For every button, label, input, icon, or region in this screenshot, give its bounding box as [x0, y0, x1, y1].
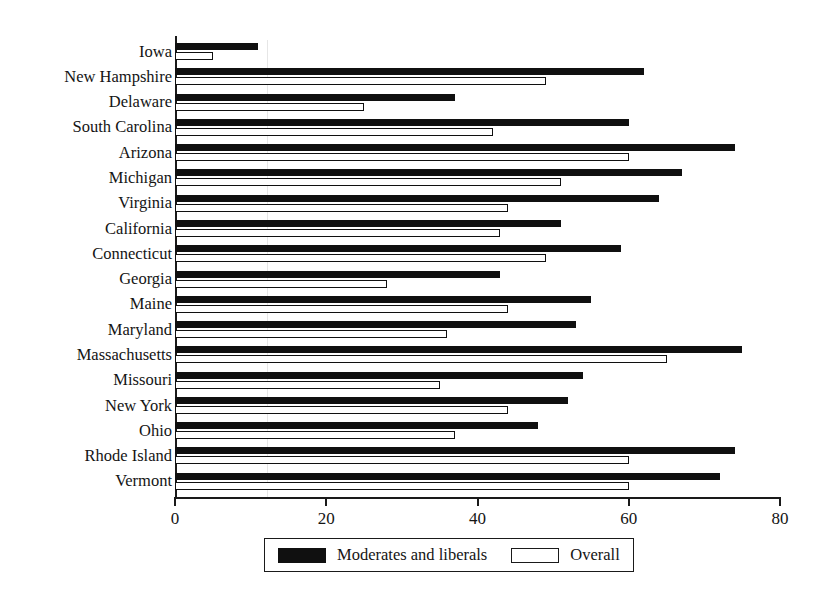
bar-moderates-and-liberals — [175, 473, 720, 480]
bar-moderates-and-liberals — [175, 220, 561, 227]
category-label: Arizona — [4, 144, 172, 162]
bar-moderates-and-liberals — [175, 296, 591, 303]
bar-moderates-and-liberals — [175, 195, 659, 202]
category-label: Delaware — [4, 93, 172, 111]
chart-row — [175, 119, 780, 144]
bar-moderates-and-liberals — [175, 447, 735, 454]
bar-moderates-and-liberals — [175, 346, 742, 353]
chart-row — [175, 245, 780, 270]
bar-overall — [175, 280, 387, 288]
legend-swatch-outlined-icon — [511, 548, 559, 563]
bar-overall — [175, 77, 546, 85]
x-tick-label: 20 — [306, 509, 346, 529]
chart-row — [175, 144, 780, 169]
bar-moderates-and-liberals — [175, 169, 682, 176]
bar-moderates-and-liberals — [175, 321, 576, 328]
bar-moderates-and-liberals — [175, 43, 258, 50]
bar-overall — [175, 330, 447, 338]
category-label: Connecticut — [4, 245, 172, 263]
category-label: Missouri — [4, 371, 172, 389]
chart-row — [175, 422, 780, 447]
plot-area — [175, 40, 780, 495]
x-tick-label: 40 — [458, 509, 498, 529]
bar-overall — [175, 178, 561, 186]
chart-row — [175, 220, 780, 245]
legend-entry-moderates-and-liberals: Moderates and liberals — [278, 546, 487, 564]
category-label: Iowa — [4, 43, 172, 61]
chart-row — [175, 68, 780, 93]
bar-moderates-and-liberals — [175, 144, 735, 151]
chart-figure: IowaNew HampshireDelawareSouth CarolinaA… — [0, 0, 828, 593]
bar-overall — [175, 456, 629, 464]
chart-legend: Moderates and liberals Overall — [264, 538, 634, 572]
category-label: Massachusetts — [4, 346, 172, 364]
bar-overall — [175, 254, 546, 262]
bar-overall — [175, 153, 629, 161]
category-label: South Carolina — [4, 118, 172, 136]
category-label: Virginia — [4, 194, 172, 212]
chart-row — [175, 296, 780, 321]
chart-row — [175, 473, 780, 498]
category-label: Georgia — [4, 270, 172, 288]
legend-label-overall: Overall — [570, 546, 619, 564]
legend-swatch-filled-icon — [278, 548, 326, 563]
chart-row — [175, 271, 780, 296]
y-axis-category-labels: IowaNew HampshireDelawareSouth CarolinaA… — [0, 40, 172, 495]
chart-row — [175, 447, 780, 472]
chart-row — [175, 43, 780, 68]
bar-moderates-and-liberals — [175, 372, 583, 379]
chart-row — [175, 397, 780, 422]
chart-row — [175, 372, 780, 397]
x-tick-label: 80 — [760, 509, 800, 529]
bar-overall — [175, 355, 667, 363]
bar-overall — [175, 482, 629, 490]
bar-moderates-and-liberals — [175, 94, 455, 101]
bar-overall — [175, 381, 440, 389]
bar-overall — [175, 431, 455, 439]
category-label: New York — [4, 397, 172, 415]
chart-row — [175, 346, 780, 371]
chart-row — [175, 195, 780, 220]
x-tick-mark — [779, 497, 781, 506]
category-label: Ohio — [4, 422, 172, 440]
bar-moderates-and-liberals — [175, 119, 629, 126]
x-tick-mark — [325, 497, 327, 506]
category-label: Maine — [4, 295, 172, 313]
x-tick-label: 0 — [155, 509, 195, 529]
category-label: Vermont — [4, 472, 172, 490]
bar-moderates-and-liberals — [175, 68, 644, 75]
bar-moderates-and-liberals — [175, 422, 538, 429]
bar-moderates-and-liberals — [175, 245, 621, 252]
bar-overall — [175, 103, 364, 111]
category-label: Michigan — [4, 169, 172, 187]
x-tick-mark — [477, 497, 479, 506]
x-tick-mark — [174, 497, 176, 506]
bar-moderates-and-liberals — [175, 271, 500, 278]
bar-overall — [175, 305, 508, 313]
category-label: Maryland — [4, 321, 172, 339]
bar-overall — [175, 52, 213, 60]
x-tick-mark — [628, 497, 630, 506]
category-label: New Hampshire — [4, 68, 172, 86]
bar-overall — [175, 406, 508, 414]
legend-entry-overall: Overall — [511, 546, 619, 564]
category-label: California — [4, 220, 172, 238]
category-label: Rhode Island — [4, 447, 172, 465]
bar-overall — [175, 128, 493, 136]
chart-row — [175, 321, 780, 346]
bar-overall — [175, 204, 508, 212]
chart-row — [175, 94, 780, 119]
chart-row — [175, 169, 780, 194]
x-tick-label: 60 — [609, 509, 649, 529]
legend-label-moderates-and-liberals: Moderates and liberals — [337, 546, 487, 564]
bar-overall — [175, 229, 500, 237]
bar-moderates-and-liberals — [175, 397, 568, 404]
